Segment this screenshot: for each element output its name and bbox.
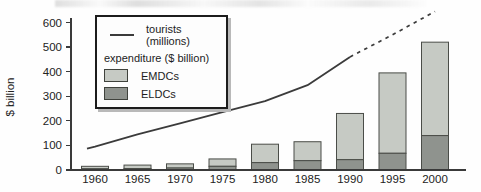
y-tick-label: 100 xyxy=(43,139,62,151)
x-tick-label: 1985 xyxy=(295,173,321,185)
x-tick-label: 1965 xyxy=(125,173,151,185)
tourism-chart-figure: 0100200300400500600196019651970197519801… xyxy=(0,0,481,192)
bar-emdc-1965 xyxy=(124,165,151,168)
bar-eldc-1995 xyxy=(379,153,406,170)
bar-emdc-1990 xyxy=(337,113,364,159)
bar-emdc-1995 xyxy=(379,73,406,153)
bar-emdc-1985 xyxy=(294,142,321,161)
legend-item-eldc: ELDCs xyxy=(104,87,220,100)
x-tick-label: 1975 xyxy=(210,173,236,185)
y-tick-label: 0 xyxy=(56,164,62,176)
legend-item-tourists: tourists (millions) xyxy=(104,23,220,47)
y-axis-title: $ billion xyxy=(4,62,18,132)
legend-box: tourists (millions) expenditure ($ billi… xyxy=(95,15,228,109)
bar-emdc-2000 xyxy=(422,42,449,135)
bar-eldc-1990 xyxy=(337,160,364,170)
legend-expenditure-heading: expenditure ($ billion) xyxy=(104,52,220,64)
y-tick-label: 300 xyxy=(43,90,62,102)
tourists-line-swatch-icon xyxy=(110,34,134,36)
bar-eldc-1985 xyxy=(294,161,321,170)
x-tick-label: 1995 xyxy=(380,173,406,185)
y-tick-label: 200 xyxy=(43,115,62,127)
legend-emdc-label: EMDCs xyxy=(141,70,179,82)
legend-eldc-label: ELDCs xyxy=(141,88,176,100)
y-tick-label: 600 xyxy=(43,17,62,29)
bar-emdc-1970 xyxy=(167,164,194,168)
eldc-swatch-icon xyxy=(104,87,128,100)
bar-eldc-2000 xyxy=(422,136,449,170)
bar-emdc-1975 xyxy=(209,159,236,166)
x-tick-label: 1960 xyxy=(82,173,108,185)
emdc-swatch-icon xyxy=(104,69,128,82)
x-tick-label: 1970 xyxy=(167,173,193,185)
y-tick-label: 400 xyxy=(43,66,62,78)
bar-emdc-1980 xyxy=(252,144,279,162)
bar-eldc-1980 xyxy=(252,163,279,170)
x-tick-label: 1990 xyxy=(337,173,363,185)
y-tick-label: 500 xyxy=(43,41,62,53)
legend-item-emdc: EMDCs xyxy=(104,69,220,82)
legend-tourists-label: tourists (millions) xyxy=(146,23,220,47)
x-tick-label: 1980 xyxy=(252,173,278,185)
chart-plot-area: 0100200300400500600196019651970197519801… xyxy=(0,0,481,192)
x-tick-label: 2000 xyxy=(422,173,448,185)
